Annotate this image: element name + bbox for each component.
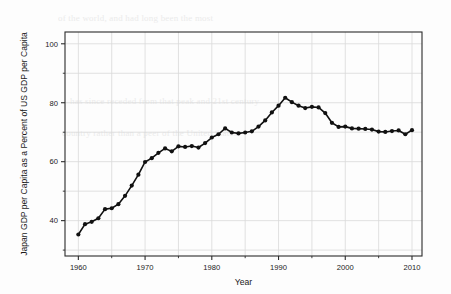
figure-canvas: of the world, and had long been the most… <box>0 0 451 294</box>
data-point <box>96 216 100 220</box>
data-point <box>130 183 134 187</box>
data-point <box>170 149 174 153</box>
y-tick-label: 100 <box>45 40 58 49</box>
data-point <box>330 121 334 125</box>
data-point <box>270 110 274 114</box>
data-point <box>83 222 87 226</box>
data-point <box>216 132 220 136</box>
data-point <box>343 125 347 129</box>
x-axis-title: Year <box>235 277 253 287</box>
data-point <box>223 126 227 130</box>
data-point <box>250 129 254 133</box>
data-point <box>203 141 207 145</box>
data-point <box>256 125 260 129</box>
data-point <box>176 144 180 148</box>
data-point <box>296 104 300 108</box>
data-point <box>323 111 327 115</box>
data-point <box>377 130 381 134</box>
data-point <box>363 127 367 131</box>
data-point <box>350 126 354 130</box>
data-point <box>263 118 267 122</box>
data-point <box>357 127 361 131</box>
data-point <box>243 130 247 134</box>
x-tick-label: 1970 <box>137 263 154 272</box>
data-point <box>303 106 307 110</box>
data-point <box>90 220 94 224</box>
plot-frame <box>65 32 422 256</box>
data-point <box>283 96 287 100</box>
data-point <box>103 207 107 211</box>
data-point <box>143 160 147 164</box>
data-point <box>390 129 394 133</box>
x-tick-labels: 196019701980199020002010 <box>70 263 421 272</box>
data-point <box>116 202 120 206</box>
y-tick-labels: 406080100 <box>45 40 58 226</box>
data-point <box>76 232 80 236</box>
grid-layer <box>65 32 422 256</box>
x-tick-label: 1980 <box>203 263 220 272</box>
data-point <box>183 145 187 149</box>
axis-ticks <box>61 44 412 260</box>
data-point <box>310 105 314 109</box>
data-point <box>196 145 200 149</box>
data-point <box>236 131 240 135</box>
x-tick-label: 1990 <box>270 263 287 272</box>
x-tick-label: 2000 <box>337 263 354 272</box>
data-point <box>163 146 167 150</box>
data-point <box>190 144 194 148</box>
y-tick-label: 80 <box>50 99 58 108</box>
data-point <box>110 206 114 210</box>
y-tick-label: 40 <box>50 216 58 225</box>
data-point <box>123 194 127 198</box>
y-tick-label: 60 <box>50 157 58 166</box>
data-point <box>276 104 280 108</box>
data-point <box>290 100 294 104</box>
data-point <box>136 173 140 177</box>
x-tick-label: 2010 <box>404 263 421 272</box>
line-chart: 196019701980199020002010 406080100 Year … <box>0 0 451 294</box>
x-tick-label: 1960 <box>70 263 87 272</box>
data-point <box>383 130 387 134</box>
data-point <box>336 125 340 129</box>
y-axis-title: Japan GDP per Capita as a Percent of US … <box>19 32 29 256</box>
data-point <box>230 130 234 134</box>
data-point <box>316 105 320 109</box>
data-point <box>397 128 401 132</box>
data-point <box>403 132 407 136</box>
data-point <box>156 151 160 155</box>
data-point <box>370 127 374 131</box>
data-point <box>410 128 414 132</box>
data-point <box>150 156 154 160</box>
data-point <box>210 135 214 139</box>
